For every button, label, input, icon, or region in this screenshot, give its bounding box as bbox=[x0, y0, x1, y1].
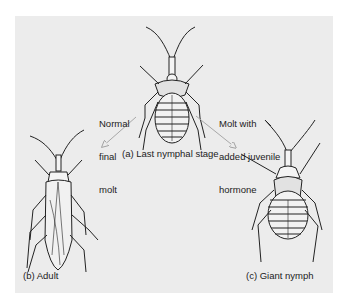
last-nymph-insect bbox=[139, 27, 205, 150]
caption-last-nymphal-stage: (a) Last nymphal stage bbox=[122, 148, 219, 159]
hormone-molt-line-3: hormone bbox=[219, 184, 280, 195]
caption-adult: (b) Adult bbox=[23, 270, 58, 281]
hormone-molt-line-2: added juvenile bbox=[219, 151, 280, 162]
caption-giant-nymph: (c) Giant nymph bbox=[246, 270, 314, 281]
normal-molt-line-3: molt bbox=[99, 184, 130, 195]
juvenile-hormone-molt-label: Molt with added juvenile hormone bbox=[219, 96, 280, 206]
normal-molt-line-1: Normal bbox=[99, 118, 130, 129]
adult-insect bbox=[27, 130, 98, 272]
hormone-molt-line-1: Molt with bbox=[219, 118, 280, 129]
